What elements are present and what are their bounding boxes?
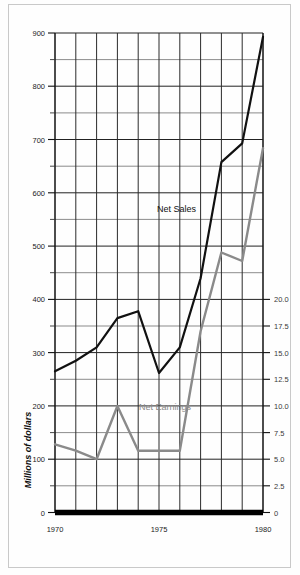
- ytick-right-5: 5.0: [274, 455, 284, 464]
- dual-axis-line-chart: 900 800 700 600 500 400 300 200 100 0 20…: [0, 0, 300, 575]
- chart-figure: 900 800 700 600 500 400 300 200 100 0 20…: [0, 0, 300, 575]
- ytick-left-800: 800: [32, 82, 45, 91]
- ytick-right-10: 10.0: [274, 402, 289, 411]
- ytick-left-0: 0: [41, 509, 45, 518]
- ytick-right-0: 0: [274, 509, 278, 518]
- xtick-1980: 1980: [255, 525, 272, 534]
- ytick-left-300: 300: [32, 349, 45, 358]
- xtick-1970: 1970: [47, 525, 64, 534]
- ytick-right-2-5: 2.5: [274, 482, 284, 491]
- ytick-right-20: 20.0: [274, 295, 289, 304]
- ytick-right-17-5: 17.5: [274, 322, 289, 331]
- x-axis-tick-labels: 1970 1975 1980: [47, 525, 272, 534]
- left-axis-minor-ticks: [50, 60, 55, 486]
- ytick-right-7-5: 7.5: [274, 429, 284, 438]
- ytick-left-600: 600: [32, 189, 45, 198]
- y-axis-title: Millions of dollars: [23, 412, 33, 489]
- ytick-left-200: 200: [32, 402, 45, 411]
- annotation-net-sales: Net Sales: [157, 204, 197, 214]
- ytick-left-700: 700: [32, 136, 45, 145]
- ytick-left-900: 900: [32, 29, 45, 38]
- right-axis: [263, 33, 270, 513]
- xtick-1975: 1975: [151, 525, 168, 534]
- ytick-left-100: 100: [32, 455, 45, 464]
- left-axis-tick-labels: 900 800 700 600 500 400 300 200 100 0: [32, 29, 45, 518]
- ytick-right-15: 15.0: [274, 349, 289, 358]
- right-axis-tick-labels: 20.0 17.5 15.0 12.5 10.0 7.5 5.0 2.5 0: [274, 295, 289, 517]
- ytick-right-12-5: 12.5: [274, 375, 289, 384]
- ytick-left-400: 400: [32, 295, 45, 304]
- ytick-left-500: 500: [32, 242, 45, 251]
- annotation-net-earnings: Net Earnings: [139, 402, 192, 412]
